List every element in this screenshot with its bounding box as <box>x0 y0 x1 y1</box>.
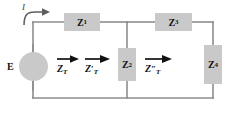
impedance-label-z4-base: Z <box>208 59 215 70</box>
impedance-label-z3-base: Z <box>168 17 175 28</box>
zt-dprime-sub: T <box>156 68 160 76</box>
impedance-label-z4-sub: 4 <box>215 61 219 69</box>
impedance-box-z4: Z4 <box>204 45 222 84</box>
impedance-label-z2-sub: 2 <box>129 61 133 69</box>
zt-prime-arrowhead-icon <box>100 55 110 63</box>
ac-source-symbol <box>19 52 48 81</box>
zt-arrowhead-icon <box>70 55 79 62</box>
current-label-i: I <box>22 3 25 12</box>
impedance-box-z1: Z1 <box>64 13 100 31</box>
impedance-label-z1-base: Z <box>77 17 84 28</box>
zt-sub: T <box>63 68 67 76</box>
zt-dprime-arrowhead-icon <box>162 55 172 63</box>
total-impedance-label-zt-prime: Z′T <box>85 64 98 76</box>
zt-prime-sub: T <box>94 68 98 76</box>
current-arrowhead-icon <box>42 8 50 16</box>
impedance-label-z3-sub: 3 <box>175 18 179 26</box>
impedance-label-z2-base: Z <box>122 59 129 70</box>
total-impedance-label-zt-dprime: Z″T <box>145 64 160 76</box>
impedance-box-z3: Z3 <box>155 13 192 31</box>
total-impedance-label-zt: ZT <box>57 64 67 76</box>
source-label-e: E <box>7 62 14 72</box>
impedance-label-z1-sub: 1 <box>84 18 88 26</box>
impedance-box-z2: Z2 <box>118 48 136 81</box>
circuit-diagram: E I Z1 Z3 Z2 Z4 ZT Z′T Z″T <box>0 0 230 117</box>
